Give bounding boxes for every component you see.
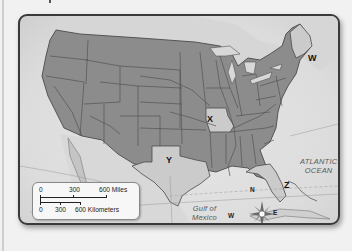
compass-south: S — [252, 222, 256, 225]
scale-km-600: 600 Kilometers — [75, 206, 119, 213]
scale-km-300: 300 — [55, 206, 66, 213]
state-label-y: Y — [166, 156, 172, 165]
us-map: W X Y Z ATLANTIC OCEAN Gulf of Mexico N … — [18, 14, 340, 225]
state-label-z: Z — [284, 181, 290, 190]
scale-miles-600: 600 Miles — [99, 186, 127, 193]
page-mark — [49, 0, 51, 3]
km-tick-600 — [80, 202, 81, 205]
state-label-w: W — [308, 54, 317, 63]
miles-tick-300 — [73, 195, 74, 198]
compass-east: E — [273, 209, 277, 216]
atlantic-line-2: OCEAN — [300, 167, 337, 176]
scale-tick-origin — [40, 195, 41, 205]
compass-north: N — [250, 186, 255, 193]
miles-tick-600 — [106, 195, 107, 198]
compass-west: W — [228, 212, 234, 219]
scale-bar: 0 300 600 Miles 0 300 600 Kilometers — [32, 182, 140, 220]
scale-miles-300: 300 — [69, 186, 80, 193]
scale-km-0: 0 — [39, 206, 43, 213]
gulf-line-2: Mexico — [192, 214, 217, 223]
state-label-x: X — [207, 115, 213, 124]
bahamas — [288, 181, 317, 201]
km-tick-300 — [60, 202, 61, 205]
gulf-of-mexico-label: Gulf of Mexico — [192, 205, 217, 222]
page-edge-rule — [2, 0, 4, 251]
atlantic-ocean-label: ATLANTIC OCEAN — [300, 158, 337, 175]
scale-miles-0: 0 — [39, 186, 43, 193]
